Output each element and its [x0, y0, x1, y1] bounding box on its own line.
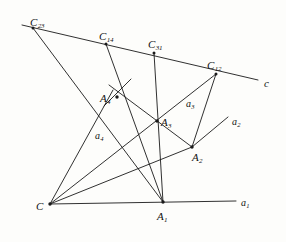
label-C23: C23 — [30, 13, 44, 30]
label-A1-sub: 1 — [164, 216, 167, 224]
label-a4-line: a4 — [95, 126, 103, 142]
label-C31-base: C — [148, 38, 155, 50]
label-a3-line: a3 — [186, 94, 194, 110]
label-line-c: c — [264, 74, 269, 90]
axis-a1 — [50, 201, 236, 204]
vertex-dot-C — [48, 202, 51, 205]
label-C31-sub: 31 — [156, 44, 163, 52]
label-C12: C12 — [207, 56, 221, 73]
label-A3-sub: 3 — [168, 122, 171, 130]
label-A4-sub: 4 — [107, 98, 110, 106]
label-a4-line-sub: 4 — [100, 135, 103, 142]
label-C23-sub: 23 — [38, 22, 45, 30]
ray-c-to-a4 — [50, 90, 113, 204]
label-C14-sub: 14 — [107, 36, 114, 44]
label-C12-base: C — [207, 59, 214, 71]
vertex-dot-A3 — [155, 119, 158, 122]
label-A4-base: A — [100, 92, 107, 104]
label-C23-base: C — [30, 16, 37, 28]
label-line-c-base: c — [264, 77, 269, 89]
label-A4: A4 — [100, 89, 110, 106]
label-A2: A2 — [192, 148, 202, 165]
label-a1-line-sub: 1 — [246, 202, 249, 209]
seg-a4-a2 — [109, 85, 192, 147]
label-a3-line-sub: 3 — [191, 103, 194, 110]
label-center-C: C — [36, 197, 43, 213]
label-a1-line: a1 — [241, 193, 249, 209]
seg-c23-a1 — [33, 28, 163, 202]
vertex-dot-A4 — [115, 95, 118, 98]
label-C14-base: C — [99, 30, 106, 42]
label-a2-line: a2 — [232, 112, 240, 128]
label-A1: A1 — [157, 207, 167, 224]
line-c — [22, 25, 258, 80]
label-A2-sub: 2 — [199, 157, 202, 165]
label-A3: A3 — [161, 113, 171, 130]
label-a2-line-sub: 2 — [237, 121, 240, 128]
ray-c-to-a2 — [50, 147, 192, 204]
label-C12-sub: 12 — [215, 65, 222, 73]
label-A1-base: A — [157, 210, 164, 222]
label-C14: C14 — [99, 27, 113, 44]
label-A3-base: A — [161, 116, 168, 128]
label-A2-base: A — [192, 151, 199, 163]
vertex-dot-A1 — [161, 200, 164, 203]
label-center-C-base: C — [36, 200, 43, 212]
geometry-figure: C23 C14 C31 C12 c A4 A3 A2 A1 C a4 a3 a2… — [0, 0, 286, 242]
seg-c12-a2 — [192, 74, 216, 147]
label-C31: C31 — [148, 35, 162, 52]
